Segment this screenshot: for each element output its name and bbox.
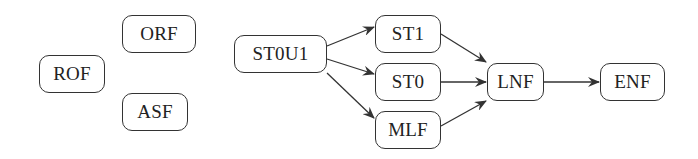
diagram-canvas: ROF ORF ASF ST0U1 ST1 ST0 MLF LNF ENF	[0, 0, 698, 159]
node-orf: ORF	[122, 15, 196, 53]
node-st1: ST1	[375, 15, 441, 53]
node-st0u1: ST0U1	[234, 35, 327, 73]
node-st0: ST0	[375, 63, 441, 101]
node-enf: ENF	[600, 63, 665, 101]
edge-st0u1-st0	[327, 59, 374, 74]
node-lnf: LNF	[487, 63, 544, 101]
node-rof: ROF	[39, 55, 105, 93]
edge-st1-lnf	[441, 34, 486, 62]
edge-st0u1-st1	[327, 27, 374, 46]
edge-st0u1-mlf	[327, 73, 374, 118]
node-mlf: MLF	[375, 111, 441, 149]
node-asf: ASF	[122, 93, 188, 131]
edge-mlf-lnf	[441, 101, 486, 126]
